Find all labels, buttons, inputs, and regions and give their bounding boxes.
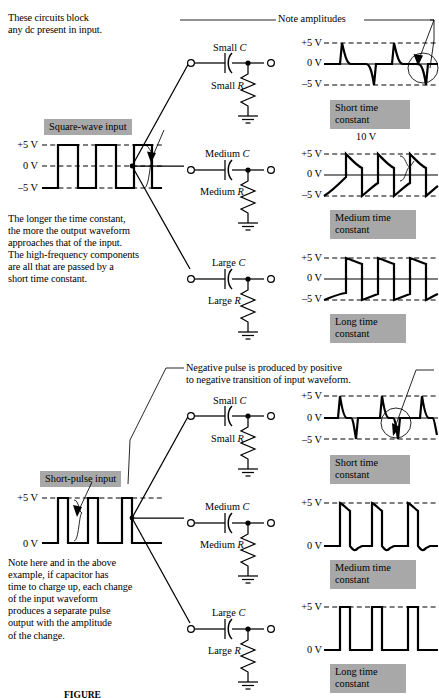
medium-c-label-b: Medium C (205, 501, 249, 512)
rc-circuit-large-a (186, 274, 282, 340)
out-a1-axis-minus5: –5 V (286, 78, 322, 89)
output-plot-short-b (324, 389, 439, 451)
short-pulse-label-pointer (66, 480, 96, 528)
note-negative-pulse: Negative pulse is produced by positive t… (186, 362, 416, 386)
long-time-constant-label-b: Long time constant (330, 664, 406, 693)
medium-time-constant-label-a: Medium time constant (330, 210, 416, 239)
note-top-left: These circuits block any dc present in i… (8, 12, 178, 36)
rc-circuit-medium-a (186, 165, 282, 231)
out-a2-axis-plus5: +5 V (286, 148, 322, 159)
rc-circuit-small-b (186, 411, 282, 477)
out-b3-axis-plus5: +5 V (286, 601, 322, 612)
square-wave-input-label: Square-wave input (44, 119, 132, 135)
medium-time-constant-label-b: Medium time constant (330, 560, 416, 589)
out-a1-axis-plus5: +5 V (286, 37, 322, 48)
input-a-axis-plus5: +5 V (2, 139, 38, 150)
input-b-axis-plus5: +5 V (2, 492, 38, 503)
out-a3-axis-minus5: –5 V (286, 293, 322, 304)
out-b1-axis-minus5: –5 V (286, 434, 322, 445)
input-a-axis-0: 0 V (2, 160, 38, 171)
input-b-axis-0: 0 V (2, 538, 38, 549)
large-c-label-a: Large C (212, 257, 245, 268)
short-time-constant-label-a: Short time constant (330, 100, 410, 129)
long-time-constant-label-a: Long time constant (330, 314, 406, 343)
rc-circuit-medium-b (186, 518, 282, 584)
out-a1-axis-0: 0 V (286, 57, 322, 68)
large-c-label-b: Large C (212, 607, 245, 618)
note-amplitudes-label: Note amplitudes (278, 13, 346, 24)
output-plot-short-a (324, 36, 439, 98)
small-c-label-a: Small C (213, 42, 246, 53)
out-b3-axis-0: 0 V (286, 644, 322, 655)
out-a3-axis-plus5: +5 V (286, 252, 322, 263)
out-a2-axis-minus5: –5 V (286, 189, 322, 200)
figure-caption: FIGURE (64, 690, 101, 698)
rc-circuit-large-b (186, 624, 282, 690)
out-b2-axis-0: 0 V (286, 540, 322, 551)
out-a3-axis-0: 0 V (286, 272, 322, 283)
small-c-label-b: Small C (213, 395, 246, 406)
output-plot-medium-a (324, 147, 439, 209)
output-plot-long-a (324, 251, 439, 313)
short-time-constant-label-b: Short time constant (330, 455, 410, 484)
out-b1-axis-0: 0 V (286, 412, 322, 423)
input-a-axis-minus5: –5 V (2, 182, 38, 193)
out-b1-axis-plus5: +5 V (286, 390, 322, 401)
rc-circuit-small-a (186, 58, 282, 124)
output-plot-long-b (324, 600, 439, 662)
out-b2-axis-plus5: +5 V (286, 497, 322, 508)
ten-volt-annotation: 10 V (356, 131, 376, 142)
medium-c-label-a: Medium C (205, 148, 249, 159)
out-a2-axis-0: 0 V (286, 168, 322, 179)
output-plot-medium-b (324, 496, 439, 558)
